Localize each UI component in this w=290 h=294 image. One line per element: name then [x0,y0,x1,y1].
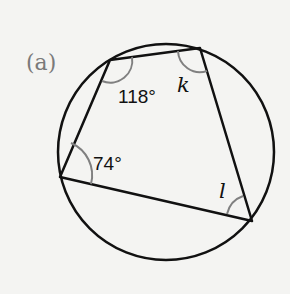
angle-label-74: 74° [93,153,122,174]
angle-label-118: 118° [118,86,156,107]
part-label: (a) [26,50,56,75]
angle-arc-left [71,143,92,184]
circumscribed-circle [58,44,274,260]
angle-label-l: l [219,179,226,203]
cyclic-quadrilateral-diagram: (a) 118° k 74° l [0,0,290,294]
angle-arc-bottom-right [227,196,243,214]
angle-label-k: k [177,73,190,97]
